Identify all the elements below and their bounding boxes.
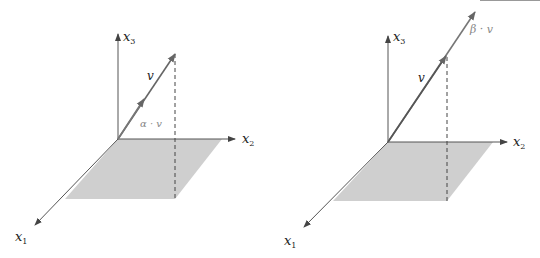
left-panel: x3 x2 x1 v α · v	[15, 29, 254, 246]
v-label: v	[418, 71, 425, 85]
vector-scaling-figure: x3 x2 x1 v α · v x3 x2 x1 v β · v	[0, 0, 540, 258]
x3-label: x3	[393, 29, 405, 46]
v-label: v	[147, 69, 154, 83]
x3-label: x3	[123, 29, 135, 46]
x1x2-plane	[333, 142, 493, 201]
right-panel: x3 x2 x1 v β · v	[284, 12, 525, 250]
x2-label: x2	[242, 131, 254, 148]
x1-label: x1	[15, 229, 27, 246]
vector-v	[388, 56, 446, 142]
x2-label: x2	[513, 134, 525, 151]
beta-v-label: β · v	[469, 23, 494, 36]
x1-label: x1	[284, 233, 296, 250]
alpha-v-label: α · v	[140, 118, 162, 129]
